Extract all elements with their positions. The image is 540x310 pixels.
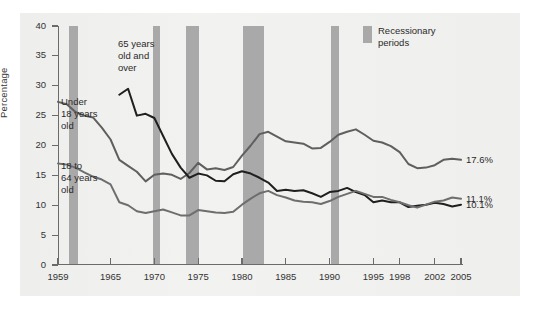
series-annotation: Under 18 years old [61,96,97,132]
legend-swatch-recession [363,26,372,43]
series-annotation: 65 years old and over [118,38,154,74]
series-line [58,163,461,215]
chart-figure: Percentage 0510152025303540 195919651970… [0,0,540,310]
series-line [58,102,461,181]
end-value-label: 11.1% [466,193,492,204]
series-annotation: 18 to 64 years old [61,160,97,196]
series-line [119,89,461,207]
series-lines [0,0,540,310]
legend-label-recession: Recessionary periods [378,25,436,48]
end-value-label: 17.6% [466,154,493,165]
legend: Recessionary periods [363,25,436,48]
